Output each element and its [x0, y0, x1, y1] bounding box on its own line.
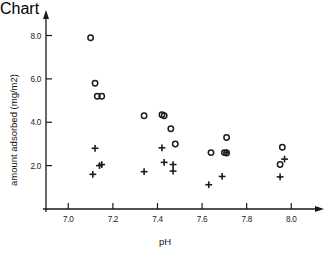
series-circle-open — [88, 35, 285, 167]
x-tick-label-3: 7.6 — [197, 215, 208, 224]
data-point-plus-4 — [141, 168, 148, 175]
data-point-plus-13 — [277, 174, 284, 181]
data-point-circle-8 — [173, 141, 178, 146]
series-plus — [89, 144, 288, 188]
y-axis-arrowhead — [43, 10, 49, 19]
data-point-circle-1 — [92, 81, 97, 86]
data-point-plus-0 — [92, 145, 99, 152]
x-tick-label-1: 7.2 — [108, 215, 119, 224]
data-point-plus-3 — [89, 171, 96, 178]
data-point-circle-4 — [141, 113, 146, 118]
data-point-circle-14 — [277, 162, 282, 167]
y-tick-label-3: 8.0 — [31, 32, 42, 41]
y-tick-label-1: 4.0 — [31, 118, 42, 127]
x-tick-label-0: 7.0 — [63, 215, 74, 224]
y-axis-ticks: 2.04.06.08.0 — [31, 32, 52, 171]
data-point-circle-7 — [168, 126, 173, 131]
scatter-chart-figure: amount adsorbed (mg/m2) pH 7.07.27.47.67… — [0, 0, 330, 254]
data-point-plus-9 — [205, 181, 212, 188]
chart-canvas: amount adsorbed (mg/m2) pH 7.07.27.47.67… — [0, 0, 330, 254]
data-point-circle-0 — [88, 35, 93, 40]
data-point-circle-13 — [280, 144, 285, 149]
x-tick-label-4: 7.8 — [241, 215, 252, 224]
x-tick-label-2: 7.4 — [152, 215, 163, 224]
y-tick-label-0: 2.0 — [31, 162, 42, 171]
data-point-plus-12 — [281, 156, 288, 163]
data-point-plus-5 — [159, 144, 166, 151]
data-points-layer — [88, 35, 288, 188]
data-point-plus-8 — [170, 168, 177, 175]
x-axis-title: pH — [159, 236, 171, 247]
data-point-plus-6 — [161, 159, 168, 166]
data-point-plus-7 — [170, 161, 177, 168]
x-axis-ticks: 7.07.27.47.67.88.0 — [63, 203, 297, 224]
data-point-plus-10 — [219, 173, 226, 180]
axis-spines — [43, 10, 324, 212]
y-tick-label-2: 6.0 — [31, 75, 42, 84]
data-point-circle-9 — [208, 150, 213, 155]
y-axis-title: amount adsorbed (mg/m2) — [8, 74, 19, 186]
data-point-circle-10 — [224, 135, 229, 140]
x-axis-arrowhead — [315, 206, 324, 212]
x-tick-label-5: 8.0 — [286, 215, 297, 224]
